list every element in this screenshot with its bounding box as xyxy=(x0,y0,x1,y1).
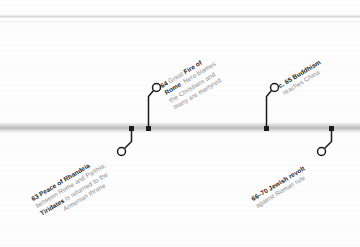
timeline-axis xyxy=(0,122,360,134)
top-rule xyxy=(0,14,360,19)
event-label-jewish-revolt: 66–70 Jewish revolt against Roman rule xyxy=(250,165,311,211)
top-rule-secondary xyxy=(0,21,360,23)
event-label-great-fire-of-rome: 64 Great Fire of Rome: Nero blames the C… xyxy=(159,53,226,112)
event-label-buddhism-reaches-china: c. 65 Buddhism reaches China xyxy=(277,58,327,97)
timeline-figure: 63 Peace of Rhandeia between Rome and Pa… xyxy=(0,0,360,247)
event-label-peace-of-rhandeia: 63 Peace of Rhandeia between Rome and Pa… xyxy=(30,155,116,225)
